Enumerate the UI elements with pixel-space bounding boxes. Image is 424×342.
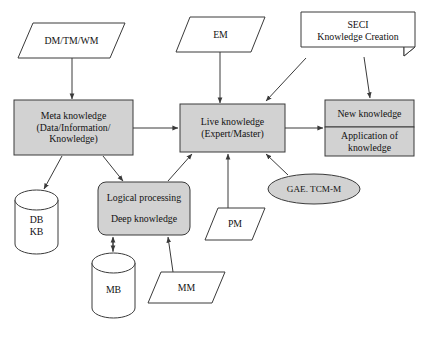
db-kb-top-ellipse <box>15 190 58 210</box>
node-dm-tm-wm[interactable] <box>18 23 125 58</box>
node-meta-knowledge[interactable] <box>14 100 133 155</box>
node-gae-tcm-m[interactable] <box>268 174 360 204</box>
edge-seci-to-live <box>266 58 306 101</box>
mb-top-ellipse <box>92 253 135 273</box>
seci-fold-icon <box>404 47 415 56</box>
diagram-canvas: DM/TM/WM EM SECI Knowledge Creation Meta… <box>0 0 424 342</box>
edge-gae-to-live <box>266 154 288 175</box>
node-pm[interactable] <box>205 208 265 240</box>
node-live-knowledge[interactable] <box>180 104 285 152</box>
edge-meta-to-db <box>44 156 62 189</box>
diagram-shapes-and-connectors <box>0 0 424 342</box>
edge-meta-to-logical <box>103 156 123 181</box>
node-mm[interactable] <box>148 272 225 303</box>
node-new-knowledge[interactable] <box>325 100 414 127</box>
node-application-of-knowledge[interactable] <box>325 127 414 156</box>
node-logical-processing[interactable] <box>98 182 190 235</box>
edge-mm-to-logical <box>168 237 173 272</box>
node-seci[interactable] <box>301 12 415 56</box>
edge-seci-to-new <box>364 57 370 98</box>
edge-logical-to-live <box>168 154 192 181</box>
node-em[interactable] <box>176 17 265 52</box>
